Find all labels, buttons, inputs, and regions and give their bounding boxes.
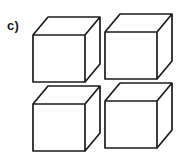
cube-bottom-left: [33, 86, 100, 151]
cube-top-right-front-face: [105, 32, 157, 79]
cube-top-left: [33, 17, 100, 82]
cube-top-left-front-face: [33, 35, 85, 82]
cube-bottom-left-front-face: [33, 104, 85, 151]
cube-bottom-right-front-face: [105, 101, 157, 148]
cube-grid: [0, 0, 183, 152]
cube-bottom-right: [105, 83, 172, 148]
cube-top-right: [105, 14, 172, 79]
answer-option-figure: c): [0, 0, 183, 152]
